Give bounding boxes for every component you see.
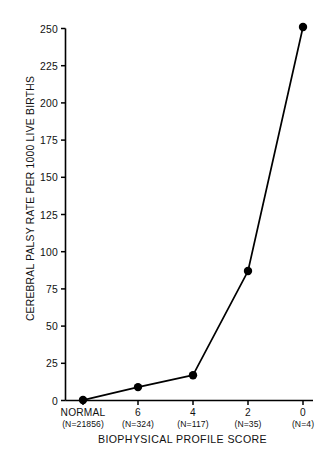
y-axis-tick-label: 25 — [18, 358, 58, 369]
x-axis-tick-sublabel: (N=324) — [122, 419, 154, 429]
x-axis-tick-label: 0 — [300, 407, 306, 418]
x-axis-tick-sublabel: (N=117) — [177, 419, 208, 429]
y-axis-tick-label: 250 — [18, 23, 58, 34]
chart-figure: CEREBRAL PALSY RATE PER 1000 LIVE BIRTHS… — [0, 0, 325, 470]
data-point-marker — [189, 371, 197, 379]
data-markers — [79, 23, 307, 404]
x-axis-tick-sublabel: (N=4) — [292, 419, 314, 429]
y-axis-tick-label: 100 — [18, 246, 58, 257]
x-axis-tick-sublabel: (N=21856) — [62, 419, 104, 429]
y-axis-tick-label: 50 — [18, 321, 58, 332]
y-axis-tick-label: 125 — [18, 209, 58, 220]
y-axis-tick-label: 175 — [18, 135, 58, 146]
y-axis-tick-label: 200 — [18, 97, 58, 108]
data-point-marker — [244, 267, 252, 275]
y-axis-tick-label: 225 — [18, 60, 58, 71]
y-axis-tick-label: 75 — [18, 283, 58, 294]
x-axis-tick-label: 4 — [190, 407, 196, 418]
x-axis-tick-sublabel: (N=35) — [234, 419, 261, 429]
y-axis-tick-label: 150 — [18, 172, 58, 183]
data-line — [83, 27, 303, 400]
x-axis-tick-label: 2 — [245, 407, 251, 418]
data-point-marker — [79, 396, 87, 404]
data-point-marker — [299, 23, 307, 31]
x-axis-tick-label: 6 — [135, 407, 141, 418]
data-point-marker — [134, 383, 142, 391]
y-axis-tick-label: 0 — [18, 395, 58, 406]
series-polyline — [83, 27, 303, 400]
x-axis-tick-label: NORMAL — [61, 407, 106, 418]
